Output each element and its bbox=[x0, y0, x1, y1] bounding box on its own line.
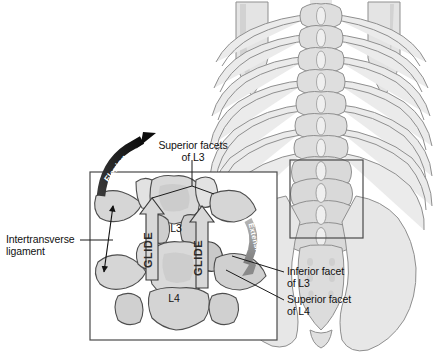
label-intertransverse-ligament: Intertransverse ligament bbox=[6, 234, 75, 257]
glide-left-text: GLIDE bbox=[142, 232, 154, 268]
label-intertransverse-ligament-line2: ligament bbox=[6, 246, 75, 258]
label-inferior-facet-l3: Inferior facet of L3 bbox=[287, 266, 344, 289]
thoracic-spine bbox=[294, 0, 348, 161]
vertebra-l4-label: L4 bbox=[168, 292, 180, 304]
glide-right-text: GLIDE bbox=[192, 240, 204, 276]
vertebra-l3-label: L3 bbox=[170, 222, 182, 234]
label-superior-facets-l3-line1: Superior facets bbox=[152, 140, 234, 152]
label-inferior-facet-l3-line1: Inferior facet bbox=[287, 266, 344, 278]
label-superior-facet-l4: Superior facet of L4 bbox=[287, 294, 351, 317]
label-inferior-facet-l3-line2: of L3 bbox=[287, 278, 344, 290]
label-superior-facets-l3: Superior facets of L3 bbox=[152, 140, 234, 163]
label-intertransverse-ligament-line1: Intertransverse bbox=[6, 234, 75, 246]
figure-canvas: GLIDE GLIDE L3 L4 Flexion Extension bbox=[0, 0, 437, 359]
label-superior-facet-l4-line2: of L4 bbox=[287, 306, 351, 318]
label-superior-facets-l3-line2: of L3 bbox=[152, 152, 234, 164]
lumbar-spine bbox=[290, 157, 354, 254]
anatomy-figure: GLIDE GLIDE L3 L4 Flexion Extension bbox=[0, 0, 437, 359]
label-superior-facet-l4-line1: Superior facet bbox=[287, 294, 351, 306]
